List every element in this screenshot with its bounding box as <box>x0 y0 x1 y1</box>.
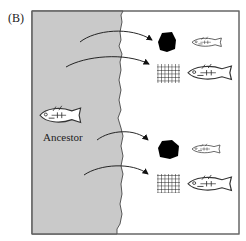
colonization-diagram <box>0 0 246 241</box>
grid-net-icon <box>157 64 180 83</box>
grid-net-icon <box>157 174 180 193</box>
ancestor-label: Ancestor <box>43 131 83 143</box>
ocean-region <box>32 11 123 234</box>
